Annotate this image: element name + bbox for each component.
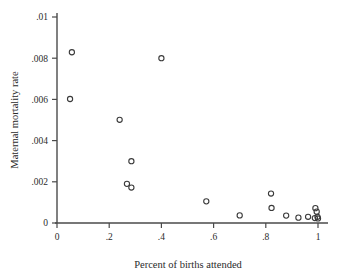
scatter-point-series: [67, 50, 320, 221]
x-tick-label: 1: [316, 232, 321, 242]
scatter-point: [237, 213, 242, 218]
scatter-point: [67, 96, 72, 101]
x-tick-label: .4: [158, 232, 165, 242]
x-axis-ticks: [57, 223, 318, 228]
x-tick-label: .2: [106, 232, 113, 242]
x-axis: 0.2.4.6.81: [55, 223, 328, 242]
scatter-point: [296, 215, 301, 220]
y-axis-title: Maternal mortality rate: [9, 71, 20, 169]
scatter-point: [305, 214, 310, 219]
chart-canvas: 0.002.004.006.008.01 0.2.4.6.81 Percent …: [0, 0, 340, 277]
y-tick-label: .01: [36, 12, 48, 22]
x-tick-label: .6: [210, 232, 217, 242]
x-axis-title: Percent of births attended: [134, 259, 242, 270]
scatter-point: [204, 199, 209, 204]
scatter-point: [129, 185, 134, 190]
scatter-point: [124, 181, 129, 186]
scatter-point: [269, 205, 274, 210]
scatter-point: [159, 56, 164, 61]
scatter-point: [117, 117, 122, 122]
scatter-point: [129, 159, 134, 164]
scatter-point: [69, 50, 74, 55]
y-tick-label: .004: [31, 136, 48, 146]
y-tick-label: .008: [31, 54, 48, 64]
x-axis-tick-labels: 0.2.4.6.81: [55, 232, 321, 242]
scatter-point: [268, 191, 273, 196]
y-axis: 0.002.004.006.008.01: [31, 12, 57, 228]
y-axis-tick-labels: 0.002.004.006.008.01: [31, 12, 48, 228]
y-tick-label: .002: [31, 177, 48, 187]
x-tick-label: 0: [55, 232, 60, 242]
y-axis-ticks: [52, 17, 57, 223]
y-tick-label: .006: [31, 95, 48, 105]
scatter-point: [284, 213, 289, 218]
y-tick-label: 0: [43, 218, 48, 228]
x-tick-label: .8: [262, 232, 269, 242]
scatter-plot-figure: 0.002.004.006.008.01 0.2.4.6.81 Percent …: [0, 0, 340, 277]
